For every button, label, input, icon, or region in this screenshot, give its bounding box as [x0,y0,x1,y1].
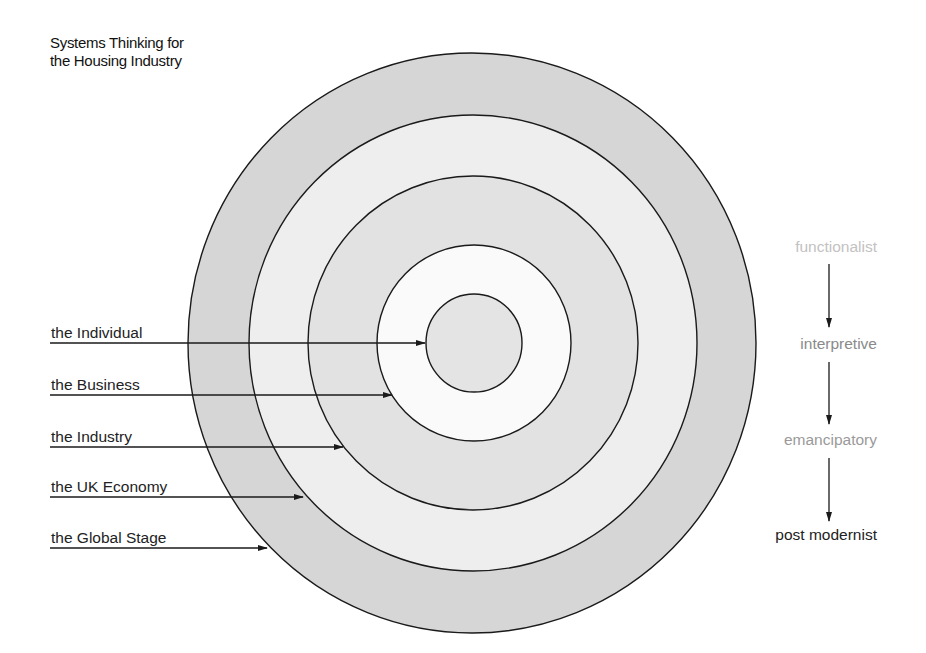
level-label-individual: the Individual [51,324,142,342]
level-label-uk-economy: the UK Economy [51,478,167,496]
ring-individual [426,294,522,392]
paradigm-post-modernist: post modernist [775,526,877,544]
level-label-global-stage: the Global Stage [51,529,166,547]
paradigm-emancipatory: emancipatory [784,431,877,449]
paradigm-interpretive: interpretive [800,335,877,353]
level-label-industry: the Industry [51,428,132,446]
paradigm-functionalist: functionalist [795,238,877,256]
level-label-business: the Business [51,376,140,394]
